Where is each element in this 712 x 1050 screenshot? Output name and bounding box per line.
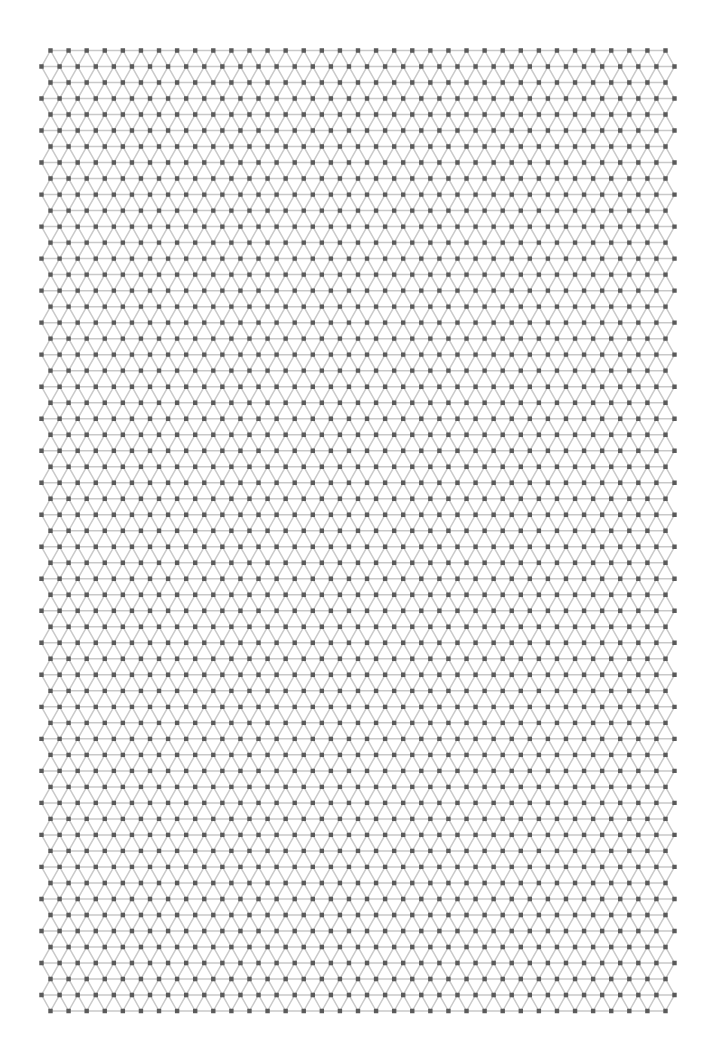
lattice-diagram	[0, 0, 712, 1050]
